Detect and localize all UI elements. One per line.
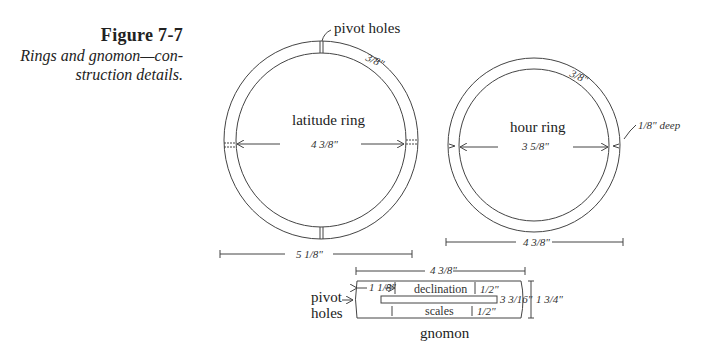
construction-drawing: pivot holes latitude ring 4 3/8" 3/8" 5 …: [0, 0, 703, 355]
hour-ring: [446, 58, 636, 246]
hour-inner-diameter: 3 5/8": [521, 140, 549, 152]
gnomon-upper-scale-label: declination: [414, 282, 467, 296]
hour-outer-diameter: 4 3/8": [523, 236, 550, 248]
gnomon-bottom-margin: 1/2": [477, 305, 496, 317]
pivot-holes-callout: pivot holes: [334, 20, 400, 36]
gnomon-label: gnomon: [420, 325, 470, 341]
hour-ring-width: 3/8": [567, 67, 590, 86]
gnomon-pivot-callout-line2: holes: [311, 305, 343, 321]
gnomon-slot-length: 3 3/16": [499, 293, 533, 305]
latitude-ring-label: latitude ring: [292, 112, 365, 128]
gnomon-top-margin: 1/2": [480, 283, 499, 295]
gnomon-length: 4 3/8": [430, 264, 457, 276]
latitude-outer-diameter: 5 1/8": [296, 248, 323, 260]
gnomon-pivot-callout-line1: pivot: [311, 289, 343, 305]
gnomon-height: 1 3/4": [536, 293, 563, 305]
hour-notch-depth: 1/8" deep: [638, 119, 681, 131]
gnomon-offset: 1 1/8": [369, 281, 396, 293]
gnomon-lower-scale-label: scales: [425, 304, 454, 318]
latitude-inner-diameter: 4 3/8": [311, 138, 338, 150]
hour-ring-label: hour ring: [510, 119, 566, 135]
